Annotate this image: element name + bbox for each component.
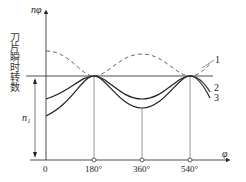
y-axis-label: nφ — [31, 4, 42, 15]
curve-1-label: 1 — [215, 54, 220, 65]
tick-540: 540° — [181, 164, 198, 174]
tick-360: 360° — [133, 164, 150, 174]
origin-label: 0 — [43, 164, 48, 174]
y-axis-vertical-label: 刀片瞬时转数 — [4, 32, 18, 92]
curve-3-label: 3 — [214, 92, 219, 103]
n1-label: n₁ — [22, 112, 30, 123]
curve-2 — [46, 76, 210, 99]
curve-1 — [46, 51, 210, 76]
x-axis-label: φ — [222, 148, 228, 159]
diagram-canvas — [0, 0, 246, 182]
tick-180: 180° — [85, 164, 102, 174]
